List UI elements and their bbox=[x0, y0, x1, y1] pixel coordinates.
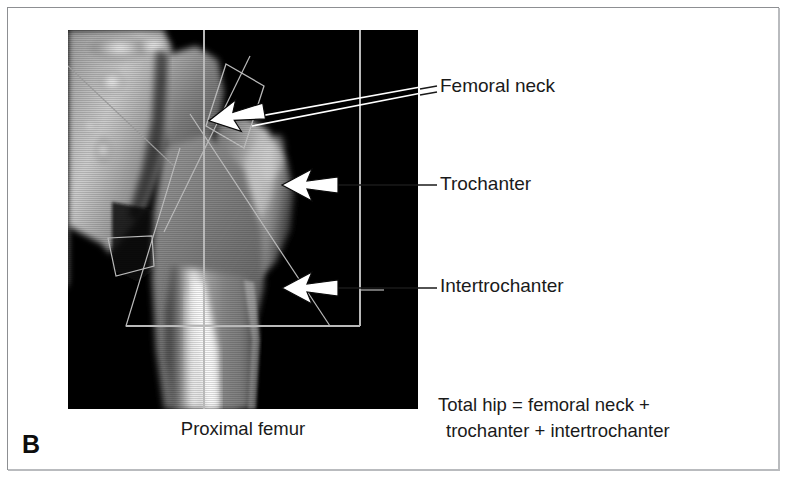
label-femoral-neck: Femoral neck bbox=[440, 76, 555, 95]
total-hip-formula: Total hip = femoral neck + trochanter + … bbox=[438, 392, 758, 445]
scan-caption: Proximal femur bbox=[68, 418, 418, 440]
label-intertrochanter: Intertrochanter bbox=[440, 276, 564, 295]
panel-letter: B bbox=[22, 432, 40, 457]
formula-line-2: trochanter + intertrochanter bbox=[438, 418, 758, 444]
label-trochanter: Trochanter bbox=[440, 174, 531, 193]
dxa-scan-image bbox=[68, 30, 418, 409]
dxa-scan-graphic bbox=[68, 30, 418, 409]
formula-line-1: Total hip = femoral neck + bbox=[438, 392, 758, 418]
figure-panel-b: Femoral neck Trochanter Intertrochanter … bbox=[0, 0, 788, 485]
